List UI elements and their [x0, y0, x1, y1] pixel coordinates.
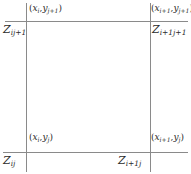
coord-label-top-right: (xi+1,yj+1)	[151, 4, 191, 13]
coord-y-sub: j+1	[48, 7, 59, 14]
coord-label-bottom-right: (xi+1,yj)	[151, 133, 184, 142]
coord-label-bottom-left: (xi,yj)	[29, 133, 53, 142]
z-base: Z	[3, 23, 11, 36]
coord-close-paren: )	[49, 132, 53, 142]
coord-x-base: x	[155, 132, 160, 142]
coord-y-base: y	[173, 3, 178, 13]
coord-x-sub: i+1	[160, 136, 171, 143]
coord-close-paren: )	[189, 3, 191, 13]
coord-x-base: x	[33, 132, 38, 142]
cell-right-edge	[150, 3, 151, 172]
z-label-top-right: Zi+1j+1	[152, 24, 186, 35]
coord-close-paren: )	[180, 132, 184, 142]
cell-bottom-edge	[3, 152, 188, 153]
z-sub: ij+1	[11, 28, 27, 37]
z-label-top-left: Zij+1	[3, 24, 26, 35]
coord-x-base: x	[33, 3, 38, 13]
z-base: Z	[3, 154, 11, 167]
z-label-bottom-left: Zij	[3, 155, 15, 166]
coord-label-top-left: (xi,yj+1)	[29, 4, 62, 13]
cell-top-edge	[5, 21, 188, 22]
z-sub: ij	[11, 159, 16, 168]
grid-cell-diagram: (xi,yj+1) Zij+1 (xi+1,yj+1) Zi+1j+1 (xi,…	[0, 0, 191, 174]
coord-y-base: y	[42, 132, 47, 142]
z-base: Z	[118, 154, 126, 167]
coord-x-sub: i+1	[160, 7, 171, 14]
coord-y-base: y	[173, 132, 178, 142]
coord-x-sub: i	[38, 136, 40, 143]
z-base: Z	[152, 23, 160, 36]
z-sub: i+1j+1	[160, 28, 187, 37]
z-label-bottom-right: Zi+1j	[118, 155, 141, 166]
z-sub: i+1j	[126, 159, 142, 168]
coord-y-base: y	[42, 3, 47, 13]
coord-close-paren: )	[58, 3, 62, 13]
coord-x-base: x	[155, 3, 160, 13]
coord-y-sub: j+1	[179, 7, 190, 14]
coord-x-sub: i	[38, 7, 40, 14]
